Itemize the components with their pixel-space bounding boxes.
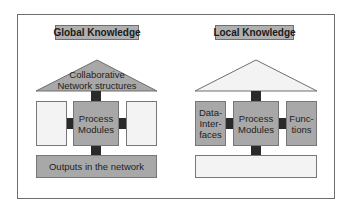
- global-process-line2: Modules: [78, 124, 114, 135]
- global-outputs-box: Outputs in the network: [36, 155, 157, 178]
- local-right-connector: [279, 118, 286, 129]
- global-bottom-connector: [91, 146, 101, 155]
- global-knowledge-title: Global Knowledge: [55, 25, 139, 40]
- local-knowledge-title: Local Knowledge: [215, 25, 294, 40]
- global-roof-label: Collaborative Network structures: [36, 69, 158, 91]
- local-process-line2: Modules: [238, 124, 274, 135]
- local-process-modules-box: Process Modules: [233, 101, 279, 146]
- global-process-modules-box: Process Modules: [73, 101, 119, 146]
- local-data-line1: Data-: [199, 107, 222, 118]
- local-functions-line2: tions: [289, 124, 313, 135]
- global-outputs-label: Outputs in the network: [49, 161, 144, 172]
- local-functions-line1: Func-: [289, 113, 313, 124]
- local-data-interfaces-box: Data- Inter- faces: [195, 101, 226, 146]
- global-roof-line2: Network structures: [36, 80, 158, 91]
- local-data-line2: Inter-: [199, 118, 222, 129]
- global-roof-line1: Collaborative: [36, 69, 158, 80]
- local-roof-connector: [251, 91, 261, 101]
- global-right-box: [126, 101, 157, 146]
- global-right-connector: [119, 118, 126, 129]
- local-process-line1: Process: [238, 113, 274, 124]
- local-left-connector: [226, 118, 233, 129]
- local-data-line3: faces: [199, 129, 222, 140]
- global-left-box: [36, 101, 67, 146]
- local-roof-triangle: [195, 60, 318, 92]
- local-bottom-connector: [251, 146, 261, 155]
- global-roof-connector: [91, 91, 101, 101]
- global-process-line1: Process: [78, 113, 114, 124]
- local-bottom-box: [195, 155, 317, 178]
- local-functions-box: Func- tions: [286, 101, 317, 146]
